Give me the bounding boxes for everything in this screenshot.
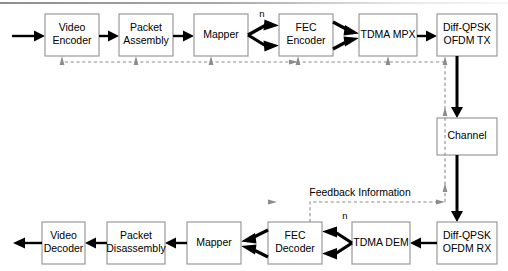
block-label-line1: Video — [59, 21, 86, 33]
feedback-drop-mapper-tx — [209, 56, 214, 65]
block-label-line2: Encoder — [52, 34, 92, 46]
n-branches-label-rx: n — [342, 210, 347, 221]
input-arrow — [12, 31, 45, 42]
top-edge-rule — [0, 2, 508, 4]
block-label-line2: Decoder — [275, 242, 315, 254]
block-label-line1: Channel — [447, 129, 486, 141]
arrow-mapper-rx-to-packet-disassembly — [165, 238, 187, 249]
block-packet-assembly[interactable]: Packet Assembly — [119, 14, 173, 56]
block-video-decoder[interactable]: Video Decoder — [42, 222, 85, 264]
block-tdma-dem[interactable]: TDMA DEM — [352, 222, 410, 264]
block-label-line1: Mapper — [203, 28, 239, 40]
block-diagram-canvas: Video Encoder Packet Assembly Mapper — [0, 0, 508, 271]
block-tdma-mpx[interactable]: TDMA MPX — [359, 14, 417, 56]
block-label-line1: Packet — [130, 21, 162, 33]
arrow-tx-to-channel — [451, 56, 463, 118]
branches-fec-encoder-to-tdma-mpx — [333, 22, 359, 49]
system-block-diagram: Video Encoder Packet Assembly Mapper — [0, 0, 508, 271]
block-mapper-tx[interactable]: Mapper — [194, 14, 248, 56]
feedback-drop-video-encoder — [60, 56, 65, 65]
n-branches-label-tx: n — [259, 8, 264, 19]
feedback-riser-from-fec-decoder — [268, 200, 445, 222]
arrow-tdma-mpx-to-diff-qpsk-tx — [417, 31, 437, 42]
block-label-line2: Decoder — [44, 242, 84, 254]
block-diff-qpsk-ofdm-tx[interactable]: Diff-QPSK OFDM TX — [437, 14, 497, 56]
block-label-line1: Diff-QPSK — [443, 21, 491, 33]
block-label-line1: FEC — [285, 229, 306, 241]
feedback-information-label: Feedback Information — [309, 186, 411, 198]
block-fec-decoder[interactable]: FEC Decoder — [268, 222, 322, 264]
block-label-line1: TDMA MPX — [361, 28, 416, 40]
branches-mapper-to-fec-encoder — [248, 20, 279, 52]
branches-fec-decoder-to-mapper — [241, 230, 268, 257]
arrow-packet-assembly-to-mapper — [173, 31, 194, 42]
feedback-drop-fec-encoder — [296, 56, 301, 65]
block-label-line1: Diff-QPSK — [443, 229, 491, 241]
arrow-channel-to-rx — [451, 155, 463, 222]
block-label-line1: FEC — [296, 21, 317, 33]
block-label-line1: Packet — [120, 229, 152, 241]
arrow-video-encoder-to-packet-assembly — [99, 31, 119, 42]
block-label-line2: OFDM TX — [443, 34, 490, 46]
feedback-drop-packet-assembly — [134, 56, 139, 65]
block-label-line1: TDMA DEM — [353, 236, 408, 248]
block-video-encoder[interactable]: Video Encoder — [45, 14, 99, 56]
block-diff-qpsk-ofdm-rx[interactable]: Diff-QPSK OFDM RX — [437, 222, 497, 264]
branches-tdma-dem-to-fec-decoder — [322, 227, 352, 260]
block-label-line2: Assembly — [123, 34, 169, 46]
block-channel[interactable]: Channel — [437, 118, 497, 155]
feedback-drop-tdma-mpx — [386, 56, 391, 65]
block-label-line2: Disassembly — [106, 242, 166, 254]
arrow-diff-qpsk-rx-to-tdma-dem — [410, 238, 437, 249]
block-packet-disassembly[interactable]: Packet Disassembly — [106, 222, 166, 264]
block-label-line1: Video — [50, 229, 77, 241]
block-label-line2: OFDM RX — [443, 242, 491, 254]
block-mapper-rx[interactable]: Mapper — [187, 222, 241, 264]
output-arrow — [13, 238, 42, 249]
block-label-line1: Mapper — [196, 236, 232, 248]
block-fec-encoder[interactable]: FEC Encoder — [279, 14, 333, 56]
arrow-packet-disassembly-to-video-decoder — [85, 238, 107, 249]
block-label-line2: Encoder — [286, 34, 326, 46]
